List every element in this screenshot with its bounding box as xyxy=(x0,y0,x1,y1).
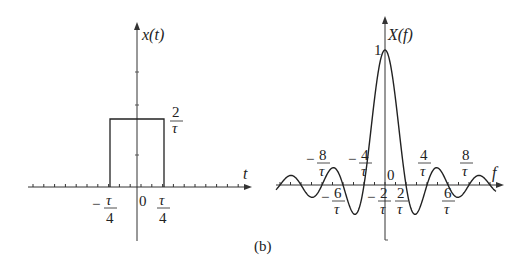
xt-label: x(t) xyxy=(141,26,164,44)
t-label: t xyxy=(243,165,248,182)
left-edge-num: τ xyxy=(106,192,112,208)
svg-text:τ: τ xyxy=(397,201,403,217)
svg-text:τ: τ xyxy=(361,163,367,179)
svg-text:2: 2 xyxy=(397,185,405,201)
svg-text:−: − xyxy=(321,189,329,205)
f-tick-label: −2τ xyxy=(367,185,391,217)
amp-den: τ xyxy=(172,120,178,136)
svg-text:τ: τ xyxy=(319,163,325,179)
left-origin-label: 0 xyxy=(139,193,147,209)
svg-text:−: − xyxy=(367,189,375,205)
svg-text:τ: τ xyxy=(334,201,340,217)
right-edge-den: 4 xyxy=(159,210,167,226)
Xf-axis-arrow-icon xyxy=(382,16,388,24)
svg-text:−: − xyxy=(306,151,314,167)
left-edge-sign: − xyxy=(92,196,100,212)
figure-canvas: x(t) t 0 2 τ − τ 4 τ 4 X(f) f 1 0 −8τ−6τ… xyxy=(0,0,526,275)
peak-label: 1 xyxy=(374,42,382,58)
f-tick-label: 6τ xyxy=(442,185,455,217)
svg-text:τ: τ xyxy=(444,201,450,217)
vertical-axis-arrow-icon xyxy=(134,22,140,30)
svg-text:6: 6 xyxy=(334,185,342,201)
right-origin-label: 0 xyxy=(387,167,395,183)
svg-text:τ: τ xyxy=(420,163,426,179)
svg-text:τ: τ xyxy=(462,163,468,179)
f-tick-label: 8τ xyxy=(460,147,473,179)
svg-text:2: 2 xyxy=(380,185,388,201)
f-tick-label: −6τ xyxy=(321,185,345,217)
right-edge-num: τ xyxy=(159,192,165,208)
svg-text:−: − xyxy=(348,151,356,167)
t-axis-arrow-icon xyxy=(244,184,252,190)
f-tick-label: 4τ xyxy=(418,147,431,179)
svg-text:τ: τ xyxy=(380,201,386,217)
f-tick-label: −4τ xyxy=(348,147,372,179)
svg-text:4: 4 xyxy=(361,147,369,163)
f-axis-arrow-icon xyxy=(496,182,504,188)
svg-text:4: 4 xyxy=(420,147,428,163)
Xf-label: X(f) xyxy=(387,26,413,44)
f-label: f xyxy=(492,164,499,182)
svg-text:8: 8 xyxy=(462,147,470,163)
left-edge-den: 4 xyxy=(106,210,114,226)
svg-text:6: 6 xyxy=(444,185,452,201)
figure-caption: (b) xyxy=(254,238,272,255)
right-plot xyxy=(276,16,504,240)
f-tick-label: 2τ xyxy=(395,185,408,217)
amp-num: 2 xyxy=(172,104,180,120)
svg-text:8: 8 xyxy=(319,147,327,163)
